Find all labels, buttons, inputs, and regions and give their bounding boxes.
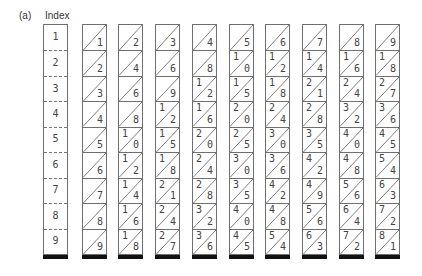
rod-cell: 36 — [193, 229, 216, 254]
units-digit: 7 — [390, 89, 396, 99]
units-digit: 2 — [97, 64, 103, 74]
rod-3: 369121518212427 — [155, 24, 180, 255]
rod-cell: 4 — [119, 50, 142, 75]
rod-cell: 56 — [303, 203, 326, 228]
units-digit: 8 — [354, 38, 360, 48]
units-digit: 4 — [170, 217, 176, 227]
tens-digit: 1 — [233, 78, 239, 88]
units-digit: 7 — [97, 191, 103, 201]
units-digit: 0 — [244, 217, 250, 227]
units-digit: 8 — [133, 242, 139, 252]
units-digit: 0 — [244, 115, 250, 125]
index-number: 8 — [44, 210, 67, 221]
units-digit: 1 — [390, 242, 396, 252]
tens-digit: 4 — [379, 129, 385, 139]
units-digit: 8 — [354, 166, 360, 176]
units-digit: 4 — [133, 64, 139, 74]
tens-digit: 2 — [159, 231, 165, 241]
rod-base — [82, 255, 107, 259]
units-digit: 5 — [97, 140, 103, 150]
tens-digit: 8 — [379, 231, 385, 241]
tens-digit: 4 — [306, 180, 312, 190]
rod-cell: 8 — [193, 50, 216, 75]
units-digit: 4 — [354, 217, 360, 227]
units-digit: 4 — [97, 115, 103, 125]
units-digit: 5 — [244, 38, 250, 48]
tens-digit: 6 — [379, 180, 385, 190]
panel-label: (a) — [19, 10, 31, 21]
units-digit: 2 — [280, 64, 286, 74]
rod-cell: 63 — [376, 178, 399, 203]
rod-cell: 24 — [340, 76, 363, 101]
rod-cell: 18 — [156, 152, 179, 177]
rod-base — [265, 255, 290, 259]
index-column-base — [43, 255, 68, 259]
rod-cell: 20 — [230, 101, 253, 126]
index-cell: 3 — [44, 76, 67, 101]
tens-digit: 2 — [233, 129, 239, 139]
units-digit: 2 — [354, 242, 360, 252]
units-digit: 7 — [317, 38, 323, 48]
tens-digit: 1 — [122, 205, 128, 215]
units-digit: 8 — [280, 217, 286, 227]
rod-cell: 42 — [303, 152, 326, 177]
rod-cell: 32 — [340, 101, 363, 126]
tens-digit: 2 — [379, 78, 385, 88]
units-digit: 6 — [280, 166, 286, 176]
tens-digit: 1 — [343, 52, 349, 62]
rod-8: 81624324048566472 — [339, 24, 364, 255]
tens-digit: 6 — [343, 205, 349, 215]
tens-digit: 2 — [159, 180, 165, 190]
index-number: 5 — [44, 133, 67, 144]
tens-digit: 2 — [196, 154, 202, 164]
tens-digit: 1 — [122, 129, 128, 139]
rod-base — [155, 255, 180, 259]
rod-cell: 12 — [119, 152, 142, 177]
rod-6: 61218243036424854 — [265, 24, 290, 255]
tens-digit: 4 — [233, 231, 239, 241]
units-digit: 4 — [207, 38, 213, 48]
rod-cell: 4 — [83, 101, 106, 126]
tens-digit: 1 — [269, 78, 275, 88]
tens-digit: 3 — [196, 205, 202, 215]
units-digit: 6 — [354, 64, 360, 74]
units-digit: 1 — [317, 89, 323, 99]
rod-cell: 27 — [156, 229, 179, 254]
units-digit: 5 — [244, 140, 250, 150]
rod-cell: 64 — [340, 203, 363, 228]
rod-cell: 36 — [266, 152, 289, 177]
rod-cell: 72 — [340, 229, 363, 254]
rod-cell: 7 — [303, 25, 326, 50]
rod-cell: 24 — [193, 152, 216, 177]
tens-digit: 5 — [343, 180, 349, 190]
tens-digit: 4 — [343, 154, 349, 164]
units-digit: 8 — [170, 166, 176, 176]
rod-cell: 30 — [266, 127, 289, 152]
rod-cell: 9 — [83, 229, 106, 254]
tens-digit: 1 — [122, 231, 128, 241]
tens-digit: 1 — [122, 154, 128, 164]
units-digit: 8 — [207, 64, 213, 74]
index-cell: 2 — [44, 50, 67, 75]
rod-cell: 12 — [193, 76, 216, 101]
rod-base — [192, 255, 217, 259]
tens-digit: 2 — [306, 103, 312, 113]
units-digit: 4 — [317, 64, 323, 74]
rod-cell: 45 — [230, 229, 253, 254]
rod-cell: 42 — [266, 178, 289, 203]
rod-cell: 9 — [156, 76, 179, 101]
units-digit: 4 — [133, 191, 139, 201]
rod-cell: 25 — [230, 127, 253, 152]
units-digit: 6 — [317, 217, 323, 227]
rod-cell: 32 — [193, 203, 216, 228]
rod-cell: 72 — [376, 203, 399, 228]
rod-7: 71421283542495663 — [302, 24, 327, 255]
rod-9: 91827364554637281 — [375, 24, 400, 255]
rod-cell: 28 — [193, 178, 216, 203]
rod-base — [375, 255, 400, 259]
rod-cell: 10 — [119, 127, 142, 152]
rod-cell: 14 — [303, 50, 326, 75]
rod-cell: 81 — [376, 229, 399, 254]
tens-digit: 1 — [233, 52, 239, 62]
rod-cell: 54 — [376, 152, 399, 177]
